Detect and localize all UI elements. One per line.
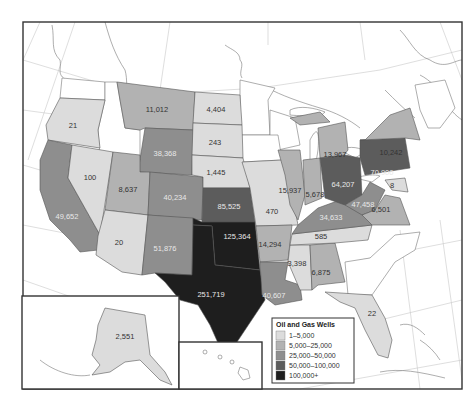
label-ohio: 64,207	[332, 180, 355, 189]
legend-swatch-2	[276, 341, 285, 350]
state-maryland	[385, 178, 408, 192]
label-utah: 8,637	[119, 185, 138, 194]
label-kansas: 85,525	[218, 202, 241, 211]
georgia-sc-nc	[345, 232, 420, 295]
legend-label-5: 100,000+	[289, 372, 318, 379]
hawaii-inset	[179, 342, 262, 389]
label-missouri: 470	[266, 207, 279, 216]
state-new-york	[360, 108, 420, 140]
label-wyoming: 38,368	[154, 149, 177, 158]
label-colorado: 40,234	[164, 193, 187, 202]
label-tennessee: 585	[315, 232, 328, 241]
legend-label-4: 50,000–100,000	[289, 362, 340, 369]
minnesota	[238, 80, 275, 135]
label-north-dakota: 4,404	[207, 105, 226, 114]
label-alaska: 2,551	[116, 332, 135, 341]
legend-swatch-3	[276, 351, 285, 360]
label-mississippi: 3,398	[288, 259, 307, 268]
legend-swatch-1	[276, 331, 285, 340]
label-illinois: 15,937	[279, 186, 302, 195]
label-oklahoma: 125,364	[223, 232, 250, 241]
label-montana: 11,012	[146, 105, 168, 114]
label-oregon: 21	[69, 121, 77, 130]
alaska-inset: 2,551	[22, 296, 179, 389]
legend-label-1: 1–5,000	[289, 332, 314, 339]
label-arizona: 20	[115, 238, 123, 247]
label-nevada: 100	[84, 173, 97, 182]
label-pennsylvania: 70,900	[371, 168, 394, 177]
legend-label-3: 25,000–50,000	[289, 352, 336, 359]
label-texas: 251,719	[197, 290, 224, 299]
label-nebraska: 1,445	[207, 168, 226, 177]
legend-swatch-5	[276, 371, 285, 380]
state-alabama	[310, 243, 345, 290]
label-michigan: 13,967	[324, 150, 347, 159]
label-south-dakota: 243	[209, 138, 222, 147]
label-new-mexico: 51,876	[154, 244, 177, 253]
label-california: 49,652	[56, 212, 79, 221]
label-kentucky: 34,633	[320, 213, 343, 222]
legend-title: Oil and Gas Wells	[276, 321, 335, 328]
legend-label-2: 5,000–25,000	[289, 342, 332, 349]
label-new-york: 10,242	[380, 148, 403, 157]
legend: Oil and Gas Wells 1–5,000 5,000–25,000 2…	[272, 318, 354, 383]
new-england	[415, 80, 455, 128]
label-maryland: 8	[390, 181, 394, 190]
label-indiana: 5,678	[306, 190, 325, 199]
label-virginia: 6,501	[372, 205, 391, 214]
legend-swatch-4	[276, 361, 285, 370]
label-louisiana: 40,607	[263, 291, 286, 300]
iowa	[238, 135, 282, 162]
label-alabama: 6,875	[312, 268, 331, 277]
label-florida: 22	[368, 309, 376, 318]
label-arkansas: 14,294	[259, 240, 282, 249]
oil-gas-wells-map: 21 49,652 100 11,012 38,368 8,637 40,234…	[0, 0, 476, 403]
washington	[60, 78, 105, 100]
